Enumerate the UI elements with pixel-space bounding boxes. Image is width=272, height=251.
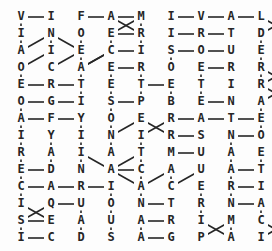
grid-letter-r5-c5[interactable]: B bbox=[164, 94, 178, 108]
grid-letter-r11-c5[interactable]: T bbox=[164, 196, 178, 210]
grid-letter-r0-c8[interactable]: L bbox=[254, 9, 268, 23]
grid-letter-r4-c2[interactable]: T bbox=[74, 77, 88, 91]
grid-letter-r2-c5[interactable]: S bbox=[164, 43, 178, 57]
grid-letter-r5-c3[interactable]: S bbox=[104, 94, 118, 108]
grid-letter-r5-c8[interactable]: A bbox=[254, 94, 268, 108]
grid-letter-r9-c1[interactable]: D bbox=[44, 162, 58, 176]
grid-letter-r2-c2[interactable]: E bbox=[74, 43, 88, 57]
grid-letter-r2-c1[interactable]: I bbox=[44, 43, 58, 57]
grid-letter-r1-c3[interactable]: E bbox=[104, 26, 118, 40]
grid-letter-r4-c7[interactable]: I bbox=[224, 77, 238, 91]
grid-letter-r13-c4[interactable]: A bbox=[134, 230, 148, 244]
grid-letter-r13-c5[interactable]: G bbox=[164, 230, 178, 244]
grid-letter-r1-c2[interactable]: O bbox=[74, 26, 88, 40]
grid-letter-r0-c3[interactable]: A bbox=[104, 9, 118, 23]
grid-letter-r3-c0[interactable]: O bbox=[14, 60, 28, 74]
grid-letter-r4-c6[interactable]: T bbox=[194, 77, 208, 91]
grid-letter-r10-c2[interactable]: R bbox=[74, 179, 88, 193]
grid-letter-r3-c6[interactable]: E bbox=[194, 60, 208, 74]
grid-letter-r3-c7[interactable]: R bbox=[224, 60, 238, 74]
grid-letter-r4-c3[interactable]: E bbox=[104, 77, 118, 91]
grid-letter-r5-c1[interactable]: G bbox=[44, 94, 58, 108]
grid-letter-r7-c8[interactable]: O bbox=[254, 128, 268, 142]
grid-letter-r6-c1[interactable]: F bbox=[44, 111, 58, 125]
grid-letter-r9-c5[interactable]: A bbox=[164, 162, 178, 176]
grid-letter-r6-c5[interactable]: R bbox=[164, 111, 178, 125]
grid-letter-r2-c4[interactable]: I bbox=[134, 43, 148, 57]
grid-letter-r12-c5[interactable]: R bbox=[164, 213, 178, 227]
grid-letter-r7-c6[interactable]: S bbox=[194, 128, 208, 142]
grid-letter-r8-c5[interactable]: M bbox=[164, 145, 178, 159]
grid-letter-r5-c0[interactable]: O bbox=[14, 94, 28, 108]
grid-letter-r11-c1[interactable]: Q bbox=[44, 196, 58, 210]
grid-letter-r6-c4[interactable]: E bbox=[134, 111, 148, 125]
grid-letter-r3-c4[interactable]: R bbox=[134, 60, 148, 74]
grid-letter-r11-c0[interactable]: I bbox=[14, 196, 28, 210]
grid-letter-r6-c6[interactable]: A bbox=[194, 111, 208, 125]
grid-letter-r13-c3[interactable]: S bbox=[104, 230, 118, 244]
grid-letter-r12-c0[interactable]: S bbox=[14, 213, 28, 227]
grid-letter-r13-c8[interactable]: I bbox=[254, 230, 268, 244]
grid-letter-r9-c8[interactable]: T bbox=[254, 162, 268, 176]
grid-letter-r3-c1[interactable]: C bbox=[44, 60, 58, 74]
grid-letter-r11-c7[interactable]: N bbox=[224, 196, 238, 210]
grid-letter-r0-c7[interactable]: A bbox=[224, 9, 238, 23]
grid-letter-r0-c5[interactable]: I bbox=[164, 9, 178, 23]
grid-letter-r13-c2[interactable]: D bbox=[74, 230, 88, 244]
grid-letter-r11-c3[interactable]: O bbox=[104, 196, 118, 210]
grid-letter-r2-c8[interactable]: E bbox=[254, 43, 268, 57]
grid-letter-r2-c6[interactable]: O bbox=[194, 43, 208, 57]
grid-letter-r9-c2[interactable]: N bbox=[74, 162, 88, 176]
grid-letter-r9-c0[interactable]: E bbox=[14, 162, 28, 176]
grid-letter-r13-c7[interactable]: A bbox=[224, 230, 238, 244]
grid-letter-r12-c3[interactable]: U bbox=[104, 213, 118, 227]
grid-letter-r4-c8[interactable]: R bbox=[254, 77, 268, 91]
grid-letter-r11-c8[interactable]: A bbox=[254, 196, 268, 210]
grid-letter-r10-c0[interactable]: C bbox=[14, 179, 28, 193]
grid-letter-r13-c0[interactable]: I bbox=[14, 230, 28, 244]
grid-letter-r3-c3[interactable]: E bbox=[104, 60, 118, 74]
grid-letter-r6-c2[interactable]: Y bbox=[74, 111, 88, 125]
grid-letter-r5-c2[interactable]: I bbox=[74, 94, 88, 108]
grid-letter-r10-c3[interactable]: I bbox=[104, 179, 118, 193]
grid-letter-r12-c1[interactable]: E bbox=[44, 213, 58, 227]
grid-letter-r10-c6[interactable]: E bbox=[194, 179, 208, 193]
grid-letter-r8-c3[interactable]: A bbox=[104, 145, 118, 159]
grid-letter-r4-c1[interactable]: R bbox=[44, 77, 58, 91]
grid-letter-r5-c7[interactable]: N bbox=[224, 94, 238, 108]
grid-letter-r1-c8[interactable]: D bbox=[254, 26, 268, 40]
grid-letter-r9-c7[interactable]: A bbox=[224, 162, 238, 176]
grid-letter-r7-c4[interactable]: I bbox=[134, 128, 148, 142]
grid-letter-r9-c4[interactable]: C bbox=[134, 162, 148, 176]
grid-letter-r3-c2[interactable]: A bbox=[74, 60, 88, 74]
grid-letter-r3-c8[interactable]: R bbox=[254, 60, 268, 74]
grid-letter-r8-c7[interactable]: A bbox=[224, 145, 238, 159]
grid-letter-r3-c5[interactable]: O bbox=[164, 60, 178, 74]
grid-letter-r10-c5[interactable]: C bbox=[164, 179, 178, 193]
grid-letter-r11-c6[interactable]: R bbox=[194, 196, 208, 210]
grid-letter-r9-c6[interactable]: U bbox=[194, 162, 208, 176]
grid-letter-r4-c0[interactable]: E bbox=[14, 77, 28, 91]
grid-letter-r0-c1[interactable]: I bbox=[44, 9, 58, 23]
grid-letter-r6-c8[interactable]: E bbox=[254, 111, 268, 125]
grid-letter-r0-c2[interactable]: F bbox=[74, 9, 88, 23]
grid-letter-r12-c6[interactable]: I bbox=[194, 213, 208, 227]
grid-letter-r4-c5[interactable]: E bbox=[164, 77, 178, 91]
grid-letter-r0-c0[interactable]: V bbox=[14, 9, 28, 23]
grid-letter-r7-c3[interactable]: N bbox=[104, 128, 118, 142]
grid-letter-r10-c8[interactable]: I bbox=[254, 179, 268, 193]
grid-letter-r0-c6[interactable]: V bbox=[194, 9, 208, 23]
grid-letter-r7-c2[interactable]: I bbox=[74, 128, 88, 142]
grid-letter-r7-c1[interactable]: Y bbox=[44, 128, 58, 142]
grid-letter-r7-c5[interactable]: R bbox=[164, 128, 178, 142]
grid-letter-r2-c7[interactable]: U bbox=[224, 43, 238, 57]
grid-letter-r1-c4[interactable]: R bbox=[134, 26, 148, 40]
grid-letter-r12-c7[interactable]: M bbox=[224, 213, 238, 227]
grid-letter-r10-c1[interactable]: A bbox=[44, 179, 58, 193]
grid-letter-r8-c6[interactable]: U bbox=[194, 145, 208, 159]
grid-letter-r13-c6[interactable]: P bbox=[194, 230, 208, 244]
grid-letter-r10-c4[interactable]: A bbox=[134, 179, 148, 193]
grid-letter-r2-c3[interactable]: C bbox=[104, 43, 118, 57]
grid-letter-r5-c4[interactable]: P bbox=[134, 94, 148, 108]
grid-letter-r8-c1[interactable]: A bbox=[44, 145, 58, 159]
